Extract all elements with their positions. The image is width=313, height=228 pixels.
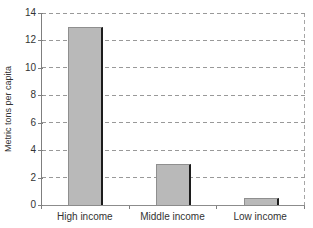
y-tick-6: [38, 123, 43, 124]
y-tick-10: [38, 68, 43, 69]
y-axis-title: Metric tons per capita: [3, 66, 13, 152]
y-tick-label-14: 14: [0, 7, 36, 19]
y-tick-label-4: 4: [0, 144, 36, 156]
category-label-high-income: High income: [40, 211, 130, 222]
bar-high-income: [68, 27, 103, 205]
y-tick-4: [38, 150, 43, 151]
bar-low-income: [244, 198, 279, 205]
x-tick-2: [216, 206, 217, 209]
y-tick-label-6: 6: [0, 117, 36, 129]
x-tick-0: [41, 206, 42, 209]
y-tick-label-2: 2: [0, 172, 36, 184]
y-tick-label-0: 0: [0, 199, 36, 211]
y-tick-label-10: 10: [0, 62, 36, 74]
category-label-middle-income: Middle income: [128, 211, 218, 222]
y-tick-2: [38, 178, 43, 179]
y-tick-14: [38, 13, 43, 14]
y-tick-12: [38, 40, 43, 41]
y-tick-label-12: 12: [0, 34, 36, 46]
plot-area: [41, 13, 305, 206]
gridline-y-14: [42, 13, 305, 14]
category-label-low-income: Low income: [215, 211, 305, 222]
bar-middle-income: [156, 164, 191, 205]
x-tick-1: [129, 206, 130, 209]
y-tick-8: [38, 95, 43, 96]
y-tick-label-8: 8: [0, 89, 36, 101]
x-tick-3: [304, 206, 305, 209]
bar-chart: Metric tons per capita 02468101214High i…: [0, 0, 313, 228]
